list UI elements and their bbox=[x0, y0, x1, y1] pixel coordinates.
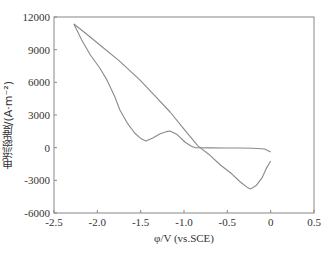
chart-svg: -6000-3000030006000900012000 -2.5-2.0-1.… bbox=[0, 0, 329, 255]
plot-frame bbox=[54, 17, 314, 213]
y-axis-title-container: 电流密度/(A·m⁻²) bbox=[2, 60, 16, 190]
series-line-branch-a bbox=[74, 24, 271, 189]
x-tick-label: -1.0 bbox=[175, 216, 193, 228]
y-tick-label: 0 bbox=[45, 142, 51, 154]
x-tick-label: 0.5 bbox=[307, 216, 321, 228]
x-tick-label: -2.5 bbox=[45, 216, 63, 228]
y-tick-label: 12000 bbox=[23, 11, 51, 23]
y-tick-label: 3000 bbox=[28, 109, 51, 121]
series-line-branch-b bbox=[74, 24, 271, 152]
x-axis-title: φ/V (vs.SCE) bbox=[154, 232, 214, 245]
y-axis: -6000-3000030006000900012000 bbox=[23, 11, 58, 219]
x-tick-label: -2.0 bbox=[89, 216, 107, 228]
data-series bbox=[74, 24, 271, 189]
y-tick-label: 9000 bbox=[28, 44, 51, 56]
x-tick-label: -0.5 bbox=[219, 216, 237, 228]
x-tick-label: -1.5 bbox=[132, 216, 150, 228]
y-tick-label: -3000 bbox=[24, 174, 50, 186]
x-tick-label: 0 bbox=[268, 216, 274, 228]
y-tick-label: 6000 bbox=[28, 76, 51, 88]
y-axis-title: 电流密度/(A·m⁻²) bbox=[1, 81, 17, 169]
